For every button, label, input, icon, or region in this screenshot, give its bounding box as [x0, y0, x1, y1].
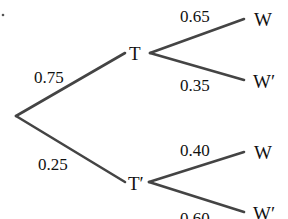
edge-t-prime-to-w-prime — [149, 182, 244, 212]
node-t-prime-w: W — [254, 142, 272, 163]
node-t-prime: T′ — [128, 173, 144, 194]
prob-t-prime-w: 0.40 — [180, 141, 210, 160]
prob-t-prime: 0.25 — [38, 155, 68, 174]
node-t-prime-w-prime: W′ — [253, 203, 275, 219]
probability-tree-diagram: T T′ W W′ W W′ 0.75 0.25 0.65 0.35 0.40 … — [0, 0, 288, 219]
node-t-w: W — [254, 9, 272, 30]
prob-t: 0.75 — [34, 68, 64, 87]
node-t: T — [129, 43, 141, 64]
prob-t-w-prime: 0.35 — [180, 76, 210, 95]
edge-root-to-t-prime — [16, 116, 125, 182]
edge-root-to-t — [16, 53, 125, 116]
node-t-w-prime: W′ — [253, 71, 275, 92]
prob-t-prime-w-prime: 0.60 — [180, 209, 210, 219]
prob-t-w: 0.65 — [180, 7, 210, 26]
stray-dot — [2, 14, 5, 17]
